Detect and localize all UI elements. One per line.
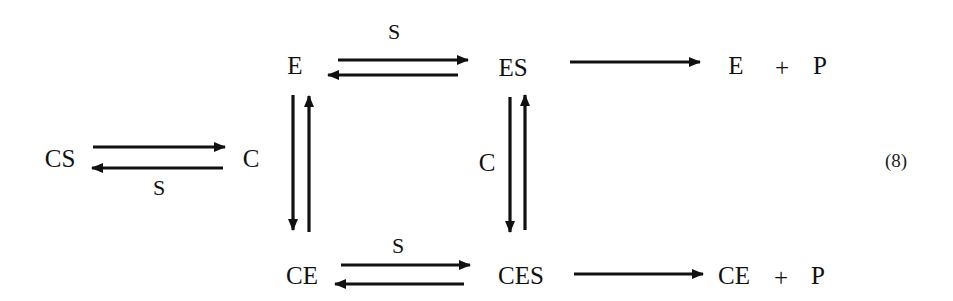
arrows-layer bbox=[0, 0, 953, 301]
reaction-scheme: E S ES E + P CS S C C (8) S CE CES CE + … bbox=[0, 0, 953, 301]
label-s-cs-c: S bbox=[153, 177, 165, 199]
label-s-e-es: S bbox=[388, 21, 400, 43]
label-c-es-ces: C bbox=[479, 150, 496, 175]
species-cs: CS bbox=[45, 146, 76, 171]
label-s-ce-ces: S bbox=[392, 235, 404, 257]
equation-number: (8) bbox=[885, 151, 907, 170]
species-es: ES bbox=[498, 55, 527, 80]
species-c: C bbox=[243, 146, 260, 171]
species-ces: CES bbox=[498, 263, 544, 288]
product-p-bottom: P bbox=[811, 263, 825, 288]
product-p-top: P bbox=[813, 53, 827, 78]
species-e: E bbox=[287, 53, 302, 78]
plus-sign-top: + bbox=[775, 55, 789, 80]
species-ce: CE bbox=[286, 263, 318, 288]
plus-sign-bottom: + bbox=[774, 265, 788, 290]
product-e: E bbox=[728, 53, 743, 78]
product-ce: CE bbox=[718, 263, 750, 288]
